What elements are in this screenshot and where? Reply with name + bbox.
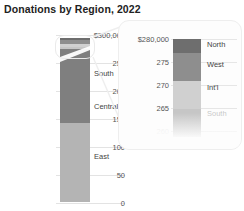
inset-series-label-north: North xyxy=(207,40,225,49)
inset-y-tick-label: 275 xyxy=(156,58,169,67)
inset-series-label-west: West xyxy=(207,60,224,69)
inset-segment-intl[interactable] xyxy=(173,81,201,109)
stacked-bar-2022[interactable] xyxy=(60,38,90,202)
series-label-text: South xyxy=(94,69,114,78)
inset-segment-west[interactable] xyxy=(173,53,201,81)
inset-y-tick-label: 265 xyxy=(156,104,169,113)
series-label-text: East xyxy=(94,152,109,161)
series-label-south: South xyxy=(94,69,114,78)
inset-y-tick-275: 275 xyxy=(121,58,169,67)
inset-y-tick-label: 270 xyxy=(156,81,169,90)
series-label-text: Central xyxy=(94,102,118,111)
inset-detail-panel: $280,000 275 270 265 260 North West Int'… xyxy=(118,20,242,150)
chart-figure: Donations by Region, 2022 $300,000 250 2… xyxy=(0,0,244,211)
bar-segment-central[interactable] xyxy=(60,49,90,123)
inset-series-label-text: North xyxy=(207,40,225,49)
series-label-central: Central xyxy=(94,102,118,111)
series-label-east: East xyxy=(94,152,109,161)
y-axis-tick-label: 0 xyxy=(121,199,125,208)
inset-y-tick-label: $280,000 xyxy=(138,35,169,44)
inset-y-tick-280000: $280,000 xyxy=(121,35,169,44)
inset-y-tick-270: 270 xyxy=(121,81,169,90)
inset-bottom-fade xyxy=(119,113,241,149)
magnified-region-highlight[interactable] xyxy=(55,35,95,59)
inset-series-label-text: Int'l xyxy=(207,83,218,92)
inset-y-tick-265: 265 xyxy=(121,104,169,113)
bar-segment-east[interactable] xyxy=(60,123,90,202)
y-axis-tick-label: 50 xyxy=(117,171,125,180)
inset-series-label-intl: Int'l xyxy=(207,83,218,92)
page-title: Donations by Region, 2022 xyxy=(4,3,141,15)
inset-series-label-text: West xyxy=(207,60,224,69)
inset-segment-north[interactable] xyxy=(173,39,201,53)
